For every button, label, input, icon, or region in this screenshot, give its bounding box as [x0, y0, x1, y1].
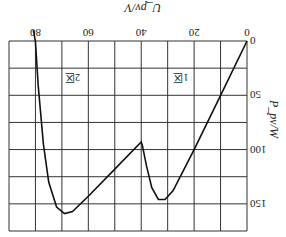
- y-tick-label: 150: [250, 198, 267, 210]
- region-label: 1区: [173, 72, 188, 83]
- y-axis-label: P_pv/W: [267, 99, 281, 139]
- x-tick-label: 20: [188, 27, 200, 39]
- grid: [9, 41, 247, 231]
- x-tick-label: 40: [135, 27, 147, 39]
- y-tick-label: 0: [250, 35, 256, 47]
- x-tick-label: 0: [244, 27, 250, 39]
- axis-ticks: 020406080050100150: [29, 27, 266, 210]
- x-tick-label: 60: [82, 27, 94, 39]
- region-label: 2区: [65, 72, 80, 83]
- pv-curve-line: [33, 30, 247, 214]
- region-annotations: 1区2区: [65, 72, 188, 83]
- chart-canvas: 020406080050100150 U_pv/V P_pv/W 1区2区: [0, 0, 286, 237]
- y-tick-label: 50: [250, 89, 262, 101]
- x-axis-label: U_pv/V: [123, 1, 161, 15]
- y-tick-label: 100: [250, 144, 267, 156]
- pv-power-voltage-chart: 020406080050100150 U_pv/V P_pv/W 1区2区: [0, 0, 286, 237]
